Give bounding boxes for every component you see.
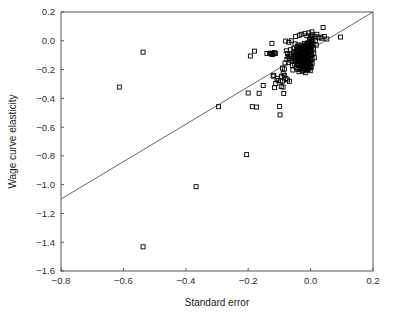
x-tick-label: −0.4	[176, 275, 195, 286]
data-point-marker	[194, 185, 198, 189]
y-tick-label: −0.4	[36, 93, 55, 104]
data-point-marker	[141, 50, 145, 54]
y-tick-label: −0.8	[36, 150, 55, 161]
data-point-marker	[321, 26, 325, 30]
plot-canvas: 0.20.0−0.2−0.4−0.6−0.8−1.0−1.2−1.4−1.6−0…	[0, 0, 398, 321]
y-tick-label: 0.2	[42, 6, 55, 17]
y-tick-label: −1.0	[36, 179, 55, 190]
data-point-marker	[248, 54, 252, 58]
y-tick-label: −0.2	[36, 64, 55, 75]
data-point-marker	[255, 105, 259, 109]
x-tick-label: 0.0	[304, 275, 317, 286]
data-point-marker	[270, 41, 274, 45]
x-tick-label: −0.2	[239, 275, 258, 286]
data-point-marker	[246, 91, 250, 95]
data-point-marker	[278, 113, 282, 117]
y-tick-label: 0.0	[42, 35, 55, 46]
data-point-marker	[282, 91, 286, 95]
data-point-marker	[339, 35, 343, 39]
data-point-marker	[257, 91, 261, 95]
data-point-marker	[141, 245, 145, 249]
data-point-marker	[272, 86, 276, 90]
data-point-marker	[245, 153, 249, 157]
y-tick-label: −0.6	[36, 122, 55, 133]
data-point-marker	[261, 84, 265, 88]
y-axis-title: Wage curve elasticity	[7, 94, 18, 188]
plot-frame	[61, 12, 373, 271]
scatter-plot-figure: 0.20.0−0.2−0.4−0.6−0.8−1.0−1.2−1.4−1.6−0…	[0, 0, 398, 321]
x-tick-label: 0.2	[366, 275, 379, 286]
y-tick-label: −1.4	[36, 237, 55, 248]
x-axis-title: Standard error	[185, 297, 250, 308]
x-tick-label: −0.8	[52, 275, 71, 286]
x-tick-label: −0.6	[114, 275, 133, 286]
data-point-marker	[252, 49, 256, 53]
data-point-group	[117, 26, 342, 249]
data-point-marker	[277, 104, 281, 108]
y-tick-label: −1.2	[36, 208, 55, 219]
data-point-marker	[117, 85, 121, 89]
data-point-marker	[250, 105, 254, 109]
